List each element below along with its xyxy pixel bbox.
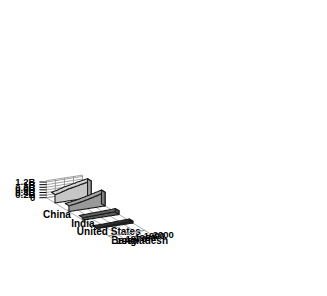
value-axis-ticks — [39, 182, 46, 198]
chart-container: 00.2B0.4B0.6B0.8B1B1.2B ChinaIndiaUnited… — [0, 0, 327, 296]
country-label-china: China — [43, 209, 71, 220]
population-3d-ribbon-chart: 00.2B0.4B0.6B0.8B1B1.2B ChinaIndiaUnited… — [0, 0, 327, 296]
value-axis-tick-label: 1.2B — [15, 176, 35, 187]
value-axis-tick-labels: 00.2B0.4B0.6B0.8B1B1.2B — [15, 176, 35, 203]
year-axis-tick-label: 2000 — [153, 229, 174, 240]
ribbon-end-cap — [101, 190, 105, 206]
